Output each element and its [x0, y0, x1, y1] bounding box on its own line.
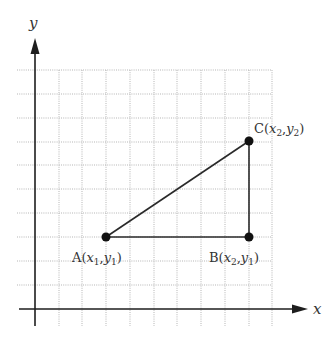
- point-b: [245, 233, 254, 242]
- point-c: [245, 137, 254, 146]
- point-a: [102, 233, 111, 242]
- point-b-label: B(x2,y1): [209, 250, 259, 267]
- y-axis-label: y: [28, 14, 38, 32]
- coordinate-plane: y x A(x1,y1) B(x2,y1) C(x2,y2): [0, 0, 335, 342]
- point-c-label: C(x2,y2): [254, 121, 304, 138]
- x-axis-arrow-icon: [292, 305, 308, 314]
- grid: [17, 70, 272, 326]
- axes: y x: [19, 14, 322, 326]
- y-axis-arrow-icon: [31, 38, 40, 54]
- x-axis-label: x: [313, 300, 322, 318]
- point-a-label: A(x1,y1): [71, 250, 122, 267]
